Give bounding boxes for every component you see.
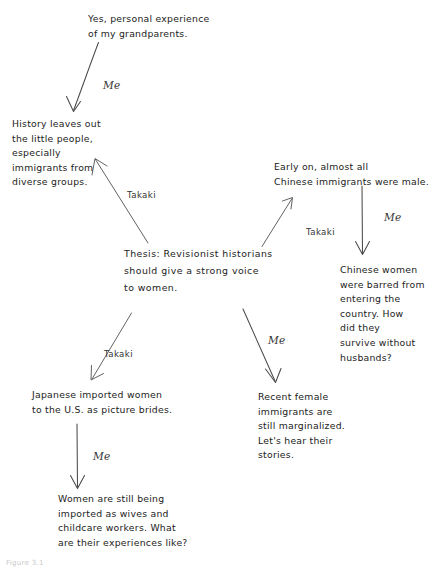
edge-label-me-recent-female: Me — [268, 334, 286, 346]
node-early-on-chinese: Early on, almost all Chinese immigrants … — [274, 160, 440, 189]
edge-label-takaki-japanese: Takaki — [104, 349, 133, 359]
arrow-grandparents-to-history — [67, 43, 99, 112]
figure-caption: Figure 3.1 — [6, 559, 44, 567]
edge-label-me-chinese-women: Me — [384, 211, 402, 223]
node-japanese-picture-brides: Japanese imported women to the U.S. as p… — [32, 388, 227, 417]
arrow-thesis-to-japanese — [91, 313, 132, 380]
edge-label-takaki-history: Takaki — [127, 190, 156, 200]
node-chinese-women-barred: Chinese women were barred from entering … — [340, 263, 440, 365]
node-women-still-imported: Women are still being imported as wives … — [58, 492, 253, 550]
edge-label-me-women-still: Me — [93, 450, 111, 462]
node-grandparents: Yes, personal experience of my grandpare… — [88, 12, 268, 41]
arrow-japanese-to-women-still — [71, 424, 85, 489]
edge-label-takaki-early-on: Takaki — [306, 227, 335, 237]
arrow-thesis-to-early-on — [262, 198, 293, 247]
arrow-early-on-to-chinese-women — [356, 186, 370, 255]
node-thesis: Thesis: Revisionist historians should gi… — [124, 245, 329, 296]
concept-map-canvas: Yes, personal experience of my grandpare… — [0, 0, 440, 569]
node-history-leaves-out: History leaves out the little people, es… — [12, 117, 137, 190]
node-recent-female-immigrants: Recent female immigrants are still margi… — [258, 390, 376, 463]
edge-label-me-grandparents: Me — [103, 79, 121, 91]
